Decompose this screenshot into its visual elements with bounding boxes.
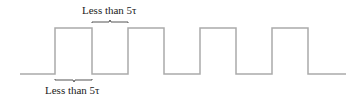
bottom-label: Less than 5τ: [45, 84, 100, 96]
top-label: Less than 5τ: [82, 4, 137, 16]
bottom-brace: [55, 79, 92, 82]
square-waveform: [20, 28, 346, 74]
top-brace: [92, 20, 128, 23]
